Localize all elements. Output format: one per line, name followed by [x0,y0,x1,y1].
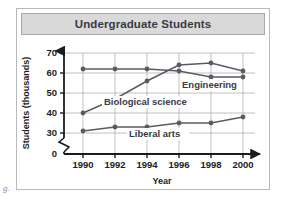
y-tick-30: 30 [46,127,57,138]
y-tick-40: 40 [46,107,57,118]
x-axis-tick-labels: 1990 1992 1994 1996 1998 2000 [72,159,253,170]
series-label-liberal-arts: Liberal arts [127,128,189,140]
chart-figure-frame: Undergraduate Students [16,8,270,190]
chart-title: Undergraduate Students [75,18,211,30]
chart-title-banner: Undergraduate Students [21,13,265,35]
x-tick-1996: 1996 [168,159,189,170]
line-chart-plot: 70 60 50 40 30 0 1990 1992 1994 1996 199… [17,35,269,189]
x-tick-1998: 1998 [200,159,221,170]
y-tick-60: 60 [46,67,57,78]
series-label-liberal-arts-text: Liberal arts [129,128,180,139]
x-tick-2000: 2000 [232,159,253,170]
x-tick-1990: 1990 [72,159,93,170]
y-tick-50: 50 [46,87,57,98]
y-tick-0: 0 [52,148,57,159]
page-scan-artifact: g. [3,183,10,193]
y-axis-title: Students (thousands) [21,57,31,150]
x-tick-1992: 1992 [104,159,125,170]
y-tick-70: 70 [46,47,57,58]
x-axis-title: Year [152,176,172,186]
series-label-biological-science: Biological science [102,96,198,108]
series-label-biological-science-text: Biological science [104,96,187,107]
series-label-engineering-text: Engineering [182,79,237,90]
x-tick-1994: 1994 [136,159,158,170]
y-axis-tick-labels: 70 60 50 40 30 0 [46,47,57,159]
series-label-engineering: Engineering [180,79,242,91]
